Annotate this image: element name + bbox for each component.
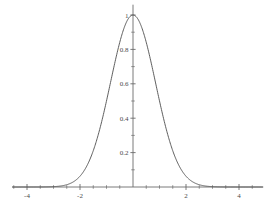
y-axis-tick-label: 0.8: [120, 46, 129, 54]
y-axis-tick-label: 0.6: [120, 80, 129, 88]
chart-background: [0, 0, 269, 209]
y-axis-tick-label: 0.4: [120, 115, 129, 123]
x-axis-tick-label: 4: [237, 192, 241, 200]
y-axis-tick-label: 0.2: [120, 149, 129, 157]
x-axis-tick-label: 2: [184, 192, 188, 200]
gaussian-curve-chart: -4-2240.20.40.60.81: [0, 0, 269, 209]
plot-container: -4-2240.20.40.60.81: [0, 0, 269, 209]
x-axis-tick-label: -4: [24, 192, 30, 200]
x-axis-tick-label: -2: [77, 192, 83, 200]
y-axis-tick-label: 1: [125, 12, 129, 20]
